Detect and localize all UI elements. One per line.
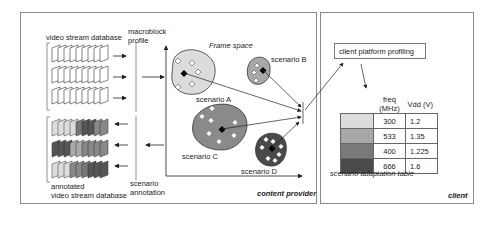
scenario-d-label: scenario D <box>241 168 277 177</box>
client-profiling-box: client platform profiling <box>334 43 426 59</box>
scenario-adaptation-table: freq (MHz) Vdd (V) 300 1.2 533 1.35 400 … <box>340 95 438 174</box>
video-frames-raw <box>52 45 108 104</box>
vdd-cell: 1.2 <box>406 114 438 129</box>
scenario-b-blob <box>247 57 270 84</box>
content-provider-label: content provider <box>257 190 316 199</box>
table-row: 400 1.225 <box>341 144 438 159</box>
scenario-color-swatch <box>341 144 374 159</box>
scenario-a-label: scenario A <box>196 96 231 105</box>
scenario-color-swatch <box>341 129 374 144</box>
video-frames-annotated <box>52 119 108 178</box>
scenario-b-label: scenario B <box>271 56 306 65</box>
header-freq: freq (MHz) <box>374 95 406 114</box>
header-vdd: Vdd (V) <box>406 95 438 114</box>
scenario-c-label: scenario C <box>182 153 218 162</box>
video-db-label: video stream database <box>46 34 122 43</box>
freq-cell: 300 <box>374 114 406 129</box>
scenario-annotation-label-2: annotation <box>130 189 165 198</box>
frame-space-label: Frame space <box>209 42 253 51</box>
table-header-row: freq (MHz) Vdd (V) <box>341 95 438 114</box>
table-row: 533 1.35 <box>341 129 438 144</box>
vdd-cell: 1.35 <box>406 129 438 144</box>
scenario-color-swatch <box>341 114 374 129</box>
annotated-db-label-2: video stream database <box>51 192 127 201</box>
freq-cell: 400 <box>374 144 406 159</box>
table-caption: scenario adaptation table <box>330 170 414 179</box>
client-label: client <box>448 192 468 201</box>
table-row: 300 1.2 <box>341 114 438 129</box>
vdd-cell: 1.225 <box>406 144 438 159</box>
freq-cell: 533 <box>374 129 406 144</box>
macroblock-label-2: profile <box>128 37 148 46</box>
